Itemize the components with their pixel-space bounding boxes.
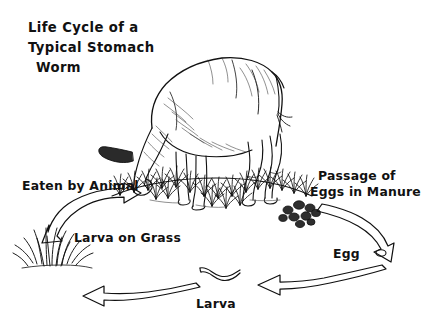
label-larva: Larva — [196, 296, 236, 311]
cow-hatching — [144, 58, 275, 166]
grassy-mound — [109, 166, 318, 208]
label-egg: Egg — [333, 246, 360, 261]
label-eaten-by-animal: Eaten by Animal — [22, 178, 139, 193]
cow-front-hoof-right — [178, 200, 190, 205]
cow-hind-hoof-right — [242, 200, 255, 206]
arrow-bottom-right — [258, 265, 386, 295]
mound-texture — [150, 200, 280, 207]
cow-haunch-contour — [252, 70, 259, 114]
cow-hock-left — [270, 172, 281, 174]
label-passage-line-2: Eggs in Manure — [310, 184, 421, 199]
label-passage-line-1: Passage of — [318, 168, 396, 183]
life-cycle-figure: Life Cycle of a Typical Stomach Worm — [0, 0, 432, 323]
cow-hind-leg-right-back — [253, 140, 263, 200]
title-line-1: Life Cycle of a — [28, 20, 139, 35]
arrow-bottom-right-body — [258, 265, 386, 295]
cow-belly-line — [160, 132, 252, 157]
cow-ear — [99, 147, 133, 163]
cow-back-line — [152, 58, 283, 146]
cow-hip-contour — [232, 60, 237, 98]
arrow-bottom-left — [83, 283, 200, 306]
larva-squiggle — [200, 268, 240, 281]
figure-title: Life Cycle of a Typical Stomach Worm — [28, 20, 155, 75]
cow-neck-front — [134, 128, 152, 184]
label-larva-on-grass: Larva on Grass — [74, 230, 181, 245]
manure-pellets — [279, 201, 321, 228]
egg-oval — [376, 250, 386, 256]
cow-front-hoof-left — [192, 206, 205, 210]
arrow-bottom-left-body — [83, 283, 200, 306]
cow-neck-back — [144, 134, 168, 186]
title-line-3: Worm — [36, 60, 81, 75]
title-line-2: Typical Stomach — [28, 40, 155, 55]
diagram-canvas: Life Cycle of a Typical Stomach Worm — [0, 0, 432, 323]
